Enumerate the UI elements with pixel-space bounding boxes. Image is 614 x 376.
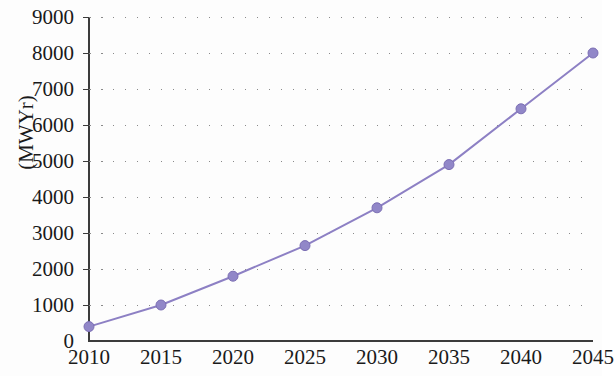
data-point-marker xyxy=(588,48,598,58)
data-series-layer xyxy=(89,17,593,341)
y-tick-label: 7000 xyxy=(32,77,74,102)
x-tick-label: 2025 xyxy=(284,345,326,370)
x-axis-tick-labels: 20102015202020252030203520402045 xyxy=(0,345,602,376)
y-tick-label: 6000 xyxy=(32,113,74,138)
y-tick-label: 3000 xyxy=(32,221,74,246)
y-tick-mark xyxy=(83,305,89,306)
y-tick-mark xyxy=(83,53,89,54)
x-tick-label: 2015 xyxy=(140,345,182,370)
data-point-marker xyxy=(156,300,166,310)
plot-area xyxy=(89,17,593,341)
x-tick-label: 2035 xyxy=(428,345,470,370)
x-tick-label: 2045 xyxy=(572,345,614,370)
x-tick-label: 2040 xyxy=(500,345,542,370)
y-tick-mark xyxy=(83,125,89,126)
x-tick-label: 2020 xyxy=(212,345,254,370)
y-tick-mark xyxy=(83,233,89,234)
x-tick-label: 2030 xyxy=(356,345,398,370)
data-point-marker xyxy=(516,104,526,114)
y-tick-mark xyxy=(83,161,89,162)
y-tick-mark xyxy=(83,89,89,90)
y-tick-label: 9000 xyxy=(32,5,74,30)
data-point-marker xyxy=(84,322,94,332)
series-line xyxy=(89,53,593,327)
y-tick-label: 8000 xyxy=(32,41,74,66)
data-point-marker xyxy=(300,241,310,251)
y-tick-mark xyxy=(83,197,89,198)
y-tick-label: 2000 xyxy=(32,257,74,282)
y-tick-mark xyxy=(83,17,89,18)
data-point-marker xyxy=(372,203,382,213)
y-tick-mark xyxy=(83,269,89,270)
data-point-marker xyxy=(228,271,238,281)
y-tick-label: 4000 xyxy=(32,185,74,210)
x-tick-label: 2010 xyxy=(68,345,110,370)
y-tick-label: 1000 xyxy=(32,293,74,318)
data-point-marker xyxy=(444,160,454,170)
y-tick-label: 5000 xyxy=(32,149,74,174)
y-axis-tick-labels: 0100020003000400050006000700080009000 xyxy=(0,0,84,376)
